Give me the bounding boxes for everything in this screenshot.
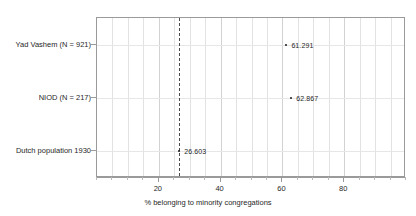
x-axis-tick-minor [127,177,128,180]
x-axis-tick-major [343,177,344,182]
y-axis-label: Yad Vashem (N = 921) [16,39,91,48]
data-point[interactable] [178,150,180,152]
x-axis-tick-minor [96,177,97,180]
data-point-label: 26.603 [184,148,206,155]
horizontal-gridline [97,151,404,152]
plot-panel: 61.29162.86726.603 [96,17,405,177]
x-axis-tick-minor [312,177,313,180]
x-axis-tick-label: 60 [277,184,285,193]
data-point-label: 62.867 [296,95,318,102]
horizontal-gridline [97,45,404,46]
x-axis-tick-minor [235,177,236,180]
y-axis-label: NIOD (N = 217) [39,93,91,102]
x-axis-tick-minor [266,177,267,180]
x-axis-tick-major [281,177,282,182]
x-axis-tick-major [158,177,159,182]
data-point[interactable] [285,44,287,46]
y-axis-label: Dutch population 1930 [16,146,91,155]
x-axis-tick-minor [173,177,174,180]
data-point[interactable] [290,97,292,99]
x-axis-tick-label: 20 [154,184,162,193]
chart-figure: 61.29162.86726.603 Yad Vashem (N = 921)N… [0,0,416,216]
x-axis-tick-minor [111,177,112,180]
x-axis-tick-minor [189,177,190,180]
x-axis-tick-minor [405,177,406,180]
y-axis-tick [90,44,96,45]
x-axis-tick-major [220,177,221,182]
y-axis-tick [90,97,96,98]
x-axis-tick-minor [204,177,205,180]
y-axis-tick [90,150,96,151]
horizontal-gridline [97,98,404,99]
data-point-label: 61.291 [291,41,313,48]
x-axis-tick-minor [328,177,329,180]
x-axis-tick-minor [390,177,391,180]
x-axis-tick-minor [251,177,252,180]
x-axis-tick-minor [374,177,375,180]
x-axis-title: % belonging to minority congregations [0,198,416,207]
x-axis-tick-label: 40 [215,184,223,193]
x-axis-tick-minor [142,177,143,180]
x-axis-tick-minor [297,177,298,180]
x-axis-tick-label: 80 [339,184,347,193]
x-axis-tick-minor [359,177,360,180]
